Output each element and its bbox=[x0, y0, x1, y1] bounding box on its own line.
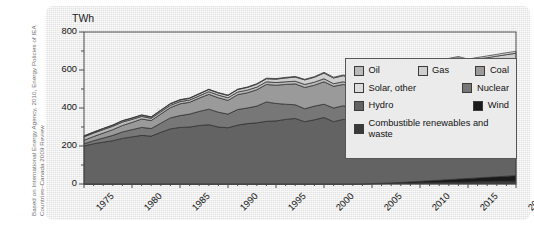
legend-row: Combustible renewables and waste bbox=[354, 118, 509, 140]
legend-swatch-solar-other bbox=[354, 83, 364, 93]
legend-row: Solar, other Nuclear bbox=[354, 83, 509, 94]
legend-label-gas: Gas bbox=[432, 65, 449, 76]
legend-item-combustible-renewables[interactable]: Combustible renewables and waste bbox=[354, 118, 509, 140]
y-tick-label: 400 bbox=[51, 102, 77, 112]
legend-item-wind[interactable]: Wind bbox=[473, 100, 509, 111]
legend-item-nuclear[interactable]: Nuclear bbox=[462, 83, 509, 94]
legend-box: Oil Gas Coal Solar, other Nuclear bbox=[345, 58, 517, 159]
legend-swatch-coal bbox=[475, 66, 485, 76]
legend-item-gas[interactable]: Gas bbox=[418, 65, 476, 76]
legend-item-oil[interactable]: Oil bbox=[354, 65, 418, 76]
legend-label-coal: Coal bbox=[490, 65, 509, 76]
legend-label-hydro: Hydro bbox=[369, 100, 394, 111]
legend-swatch-nuclear bbox=[462, 83, 472, 93]
legend-label-solar-other: Solar, other bbox=[369, 83, 417, 94]
legend-item-coal[interactable]: Coal bbox=[475, 65, 509, 76]
y-tick-label: 600 bbox=[51, 64, 77, 74]
figure-root: Based on International Energy Agency, 20… bbox=[0, 0, 534, 226]
y-tick-label: 0 bbox=[51, 178, 77, 188]
legend-swatch-combustible-renewables bbox=[354, 124, 364, 134]
source-caption: Based on International Energy Agency, 20… bbox=[0, 0, 46, 226]
legend-label-combustible-renewables: Combustible renewables and waste bbox=[369, 118, 499, 140]
legend-label-wind: Wind bbox=[488, 100, 509, 111]
source-caption-line-1: Based on International Energy Agency, 20… bbox=[30, 25, 38, 216]
y-tick-label: 800 bbox=[51, 26, 77, 36]
legend-swatch-oil bbox=[354, 66, 364, 76]
legend-row: Oil Gas Coal bbox=[354, 65, 509, 76]
legend-label-oil: Oil bbox=[369, 65, 380, 76]
legend-swatch-gas bbox=[418, 66, 428, 76]
legend-row: Hydro Wind bbox=[354, 100, 509, 111]
y-tick-label: 200 bbox=[51, 140, 77, 150]
legend-label-nuclear: Nuclear bbox=[477, 83, 509, 94]
legend-swatch-wind bbox=[473, 101, 483, 111]
legend-swatch-hydro bbox=[354, 101, 364, 111]
legend-item-hydro[interactable]: Hydro bbox=[354, 100, 473, 111]
legend-item-solar-other[interactable]: Solar, other bbox=[354, 83, 462, 94]
